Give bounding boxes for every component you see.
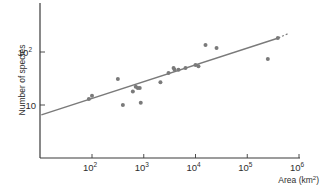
x-tick-label: 106: [290, 161, 305, 173]
data-point: [266, 57, 270, 61]
data-point: [131, 89, 135, 93]
data-point: [203, 43, 207, 47]
species-area-chart: 102103104105106 10102 Number of species …: [0, 0, 326, 193]
data-point: [139, 101, 143, 105]
data-point: [116, 77, 120, 81]
y-axis-title: Number of species: [17, 45, 27, 116]
axes: [40, 3, 300, 158]
data-point: [276, 36, 280, 40]
data-point: [158, 80, 162, 84]
x-axis-title: Area (km2): [278, 175, 319, 185]
data-point: [215, 46, 219, 50]
x-tick-label: 103: [135, 161, 150, 173]
chart-canvas: 102103104105106 10102 Number of species …: [0, 0, 326, 193]
data-point: [196, 64, 200, 68]
data-point: [90, 94, 94, 98]
data-point: [173, 68, 177, 72]
data-point: [183, 66, 187, 70]
x-tick-label: 102: [83, 161, 98, 173]
fit-line-solid: [41, 38, 278, 115]
y-tick-label: 10: [25, 100, 36, 111]
x-axis-ticks: 102103104105106: [83, 154, 305, 173]
regression-line: [41, 34, 287, 115]
data-point: [177, 68, 181, 72]
data-point: [121, 103, 125, 107]
fit-line-dashed-extension: [278, 34, 287, 38]
data-point: [138, 86, 142, 90]
data-point: [167, 71, 171, 75]
x-tick-label: 104: [186, 161, 201, 173]
x-tick-label: 105: [238, 161, 253, 173]
data-point: [87, 97, 91, 101]
